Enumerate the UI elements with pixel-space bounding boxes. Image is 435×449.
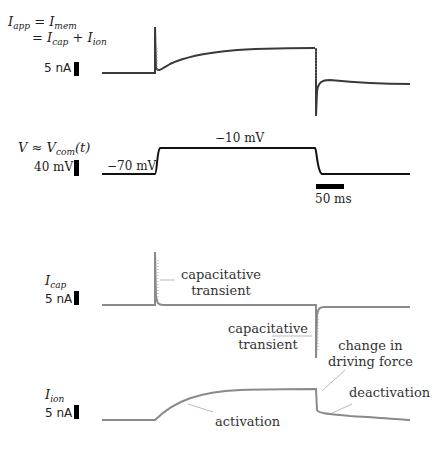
current-scale-bar-cap xyxy=(74,291,79,305)
time-scale-bar xyxy=(316,184,344,189)
membrane-current-trace xyxy=(102,27,410,116)
cap-scale-label: 5 nA xyxy=(45,292,72,306)
voltage-scale-label: 40 mV xyxy=(34,160,73,174)
activation-leader xyxy=(188,404,213,412)
i-ion-label: Iion xyxy=(45,387,64,404)
driving-force-annotation: change in driving force xyxy=(328,338,413,370)
activation-annotation: activation xyxy=(215,414,280,430)
i-cap-label: Icap xyxy=(45,273,66,290)
ion-scale-label: 5 nA xyxy=(45,406,72,420)
membrane-scale-label: 5 nA xyxy=(44,61,71,75)
deactivation-annotation: deactivation xyxy=(349,385,430,401)
equation-line-2: = Icap + Iion xyxy=(32,30,107,47)
capacitative-transient-on-annotation: capacitative transient xyxy=(181,267,261,299)
deactivation-leader xyxy=(332,404,352,413)
current-scale-bar-ion xyxy=(74,405,79,419)
equation-line-1: Iapp = Imem xyxy=(8,14,77,31)
step-potential-label: −10 mV xyxy=(215,131,264,145)
voltage-scale-bar xyxy=(74,160,79,176)
capacitative-transient-off-annotation: capacitative transient xyxy=(228,321,308,353)
voltage-label: V ≈ Vcom(t) xyxy=(18,140,90,157)
driving-force-leader xyxy=(322,370,345,391)
time-scale-label: 50 ms xyxy=(315,192,352,206)
holding-potential-label: −70 mV xyxy=(107,159,156,173)
current-scale-bar-top xyxy=(74,62,79,76)
